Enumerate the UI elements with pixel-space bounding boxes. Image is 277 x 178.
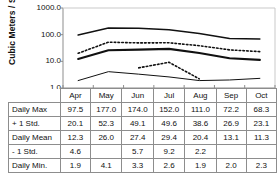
data-cell: 1.9 (185, 159, 216, 173)
data-cell: 111.0 (185, 103, 216, 117)
month-header-jul: Jul (153, 89, 184, 103)
data-cell: 2.3 (246, 159, 276, 173)
data-cell (90, 145, 121, 159)
month-header-apr: Apr (60, 89, 90, 103)
table-row: Daily Mean12.326.027.429.420.413.111.3 (9, 131, 277, 145)
data-cell: 13.1 (216, 131, 246, 145)
data-cell: 2.6 (153, 159, 184, 173)
data-cell: 5.7 (122, 145, 153, 159)
row-label: Daily Mean (9, 131, 61, 145)
table-row: Daily Max97.5177.0174.0152.0111.072.268.… (9, 103, 277, 117)
row-label: + 1 Std. (9, 117, 61, 131)
month-header-jun: Jun (122, 89, 153, 103)
data-cell: 26.0 (90, 131, 121, 145)
data-cell: 4.1 (90, 159, 121, 173)
series-line (78, 28, 260, 39)
data-cell: 26.9 (216, 117, 246, 131)
data-cell: 174.0 (122, 103, 153, 117)
data-cell: 20.4 (185, 131, 216, 145)
data-cell: 49.1 (122, 117, 153, 131)
table-row: + 1 Std.20.152.349.149.638.626.923.1 (9, 117, 277, 131)
data-cell: 1.9 (60, 159, 90, 173)
data-cell: 29.4 (153, 131, 184, 145)
row-label: - 1 Std. (9, 145, 61, 159)
data-cell: 27.4 (122, 131, 153, 145)
data-table: AprMayJunJulAugSepOctDaily Max97.5177.01… (8, 88, 277, 173)
month-header-aug: Aug (185, 89, 216, 103)
data-cell: 20.1 (60, 117, 90, 131)
month-header-sep: Sep (216, 89, 246, 103)
data-cell: 2.2 (185, 145, 216, 159)
data-cell: 9.2 (153, 145, 184, 159)
data-cell: 12.3 (60, 131, 90, 145)
month-header-oct: Oct (246, 89, 276, 103)
data-cell: 3.3 (122, 159, 153, 173)
data-cell: 68.3 (246, 103, 276, 117)
data-cell: 177.0 (90, 103, 121, 117)
series-line (139, 62, 200, 79)
row-label: Daily Max (9, 103, 61, 117)
table-row: Daily Min.1.94.13.32.61.92.02.3 (9, 159, 277, 173)
data-cell: 97.5 (60, 103, 90, 117)
data-cell (216, 145, 246, 159)
data-cell: 11.3 (246, 131, 276, 145)
data-cell: 49.6 (153, 117, 184, 131)
data-cell: 72.2 (216, 103, 246, 117)
row-label: Daily Min. (9, 159, 61, 173)
data-cell: 38.6 (185, 117, 216, 131)
data-cell: 23.1 (246, 117, 276, 131)
data-cell: 52.3 (90, 117, 121, 131)
month-header-may: May (90, 89, 121, 103)
series-line (78, 72, 260, 81)
data-cell (246, 145, 276, 159)
chart-figure: Cubic Meters / Second 1000.0 100.0 10.0 … (0, 0, 277, 178)
table-corner-cell (9, 89, 61, 103)
data-cell: 4.6 (60, 145, 90, 159)
table-row: - 1 Std.4.65.79.22.2 (9, 145, 277, 159)
data-cell: 152.0 (153, 103, 184, 117)
plot-area (0, 0, 277, 92)
table-header-row: AprMayJunJulAugSepOct (9, 89, 277, 103)
data-cell: 2.0 (216, 159, 246, 173)
